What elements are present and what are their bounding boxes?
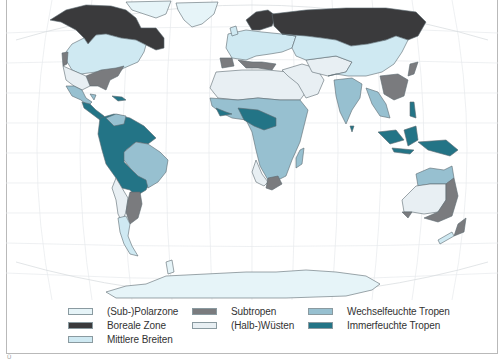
legend-label: (Halb-)Wüsten xyxy=(231,320,294,331)
legend-label: (Sub-)Polarzone xyxy=(107,306,178,317)
legend-label: Immerfeuchte Tropen xyxy=(347,320,440,331)
west-coast-subtropics xyxy=(62,52,68,66)
legend-item-wet-dry-tropics: Wechselfeuchte Tropen xyxy=(308,305,450,317)
indonesia-rainforest xyxy=(378,130,404,144)
legend-item-polar: (Sub-)Polarzone xyxy=(68,305,178,317)
greenland xyxy=(176,2,218,27)
madagascar xyxy=(296,148,304,168)
new-zealand xyxy=(454,218,466,236)
swatch-mid-latitudes xyxy=(68,336,93,343)
swatch-deserts xyxy=(192,322,217,329)
legend-item-subtropics: Subtropen xyxy=(192,305,276,317)
legend-label: Mittlere Breiten xyxy=(107,334,173,345)
land-masses xyxy=(50,1,466,298)
south-america-subtropics xyxy=(126,192,142,224)
japan xyxy=(408,62,418,76)
swatch-wet-dry-tropics xyxy=(308,308,333,315)
india-wetdry xyxy=(334,78,362,124)
mediterranean-subtropics xyxy=(238,60,276,70)
mexico xyxy=(66,86,92,106)
sri-lanka xyxy=(350,126,354,132)
scandinavia-boreal xyxy=(246,10,276,30)
legend-label: Wechselfeuchte Tropen xyxy=(347,306,450,317)
south-america-mid xyxy=(118,216,138,256)
legend-label: Subtropen xyxy=(231,306,276,317)
climate-zones-world-map xyxy=(6,0,498,300)
legend-item-rainforest: Immerfeuchte Tropen xyxy=(308,319,440,331)
legend-label: Boreale Zone xyxy=(107,320,166,331)
antarctica xyxy=(106,270,380,298)
east-asia-subtropics xyxy=(380,74,408,100)
legend-item-boreal: Boreale Zone xyxy=(68,319,166,331)
swatch-rainforest xyxy=(308,322,333,329)
north-america-mid xyxy=(66,34,146,75)
map-legend: (Sub-)Polarzone Boreale Zone Mittlere Br… xyxy=(68,305,488,350)
swatch-subtropics xyxy=(192,308,217,315)
swatch-boreal xyxy=(68,322,93,329)
legend-item-deserts: (Halb-)Wüsten xyxy=(192,319,294,331)
legend-item-mid-latitudes: Mittlere Breiten xyxy=(68,333,173,345)
swatch-polar xyxy=(68,308,93,315)
iberia xyxy=(220,58,234,68)
corner-mark: Ü xyxy=(7,354,11,360)
